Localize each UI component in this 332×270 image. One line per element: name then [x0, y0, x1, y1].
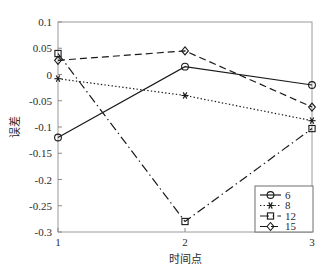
- x-tick-label: 3: [309, 236, 315, 248]
- chart-legend[interactable]: 681215: [255, 186, 313, 232]
- y-tick-label: 0.05: [33, 42, 53, 54]
- y-tick-label: -0.15: [29, 147, 52, 159]
- legend-label-15: 15: [285, 220, 297, 232]
- series-line-8: [58, 79, 312, 121]
- line-chart: 0.10.050-0.05-0.1-0.15-0.2-0.25-0.3 123 …: [0, 0, 332, 270]
- series-6: [55, 63, 316, 141]
- chart-figure: 0.10.050-0.05-0.1-0.15-0.2-0.25-0.3 123 …: [0, 0, 332, 270]
- y-tick-label: -0.2: [35, 174, 52, 186]
- y-tick-label: 0: [47, 69, 53, 81]
- y-axis-title: 误差: [8, 116, 21, 138]
- legend-box: [255, 186, 313, 232]
- x-axis-title: 时间点: [169, 253, 202, 265]
- x-tick-label: 2: [182, 236, 188, 248]
- y-tick-label: 0.1: [38, 16, 52, 28]
- axis-titles: 时间点误差: [8, 116, 202, 265]
- y-tick-label: -0.05: [29, 95, 52, 107]
- y-axis-ticks: 0.10.050-0.05-0.1-0.15-0.2-0.25-0.3: [29, 16, 62, 238]
- y-tick-label: -0.1: [35, 121, 52, 133]
- y-tick-label: -0.25: [29, 200, 52, 212]
- y-tick-label: -0.3: [35, 226, 53, 238]
- series-line-6: [58, 67, 312, 138]
- x-tick-label: 1: [55, 236, 61, 248]
